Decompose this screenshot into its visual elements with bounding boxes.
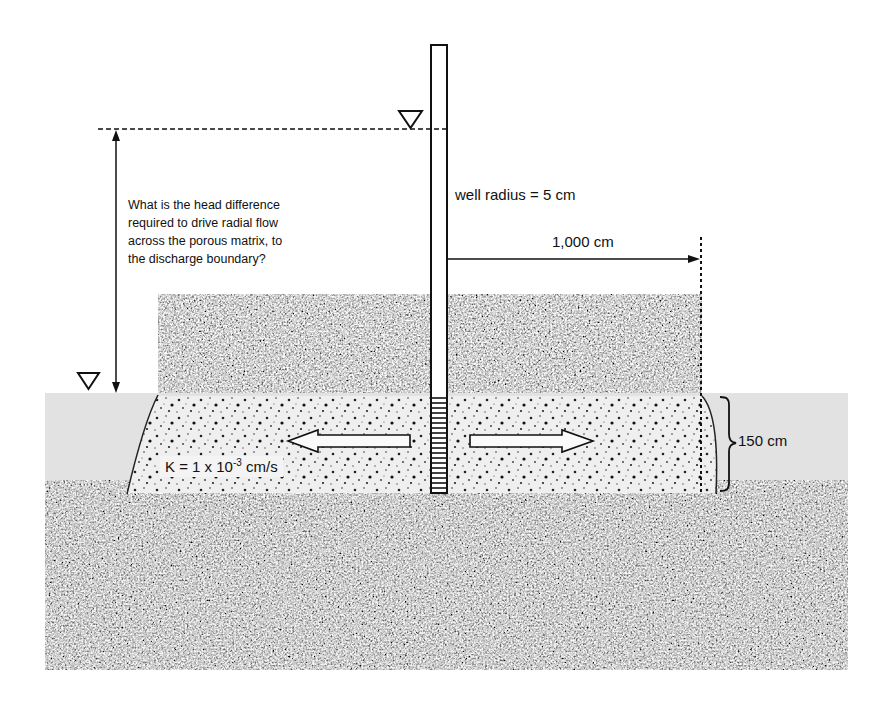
aquifer-thickness-label: 150 cm	[738, 432, 787, 449]
radial-flow-diagram: What is the head difference required to …	[0, 0, 892, 706]
k-prefix: K = 1 x 10	[165, 458, 233, 475]
k-exponent: -3	[233, 457, 242, 468]
question-line: the discharge boundary?	[128, 250, 358, 268]
well-radius-label: well radius = 5 cm	[455, 186, 575, 203]
water-table-triangle-upper-icon	[399, 111, 422, 128]
bedrock-granite	[45, 480, 848, 670]
question-line: required to drive radial flow	[128, 214, 358, 232]
k-suffix: cm/s	[242, 458, 278, 475]
head-difference-arrow	[112, 130, 120, 393]
well-pipe	[431, 45, 447, 493]
porous-aquifer	[127, 396, 717, 493]
radial-distance-arrow	[447, 255, 700, 263]
question-text: What is the head difference required to …	[128, 196, 358, 268]
water-table-triangle-lower-icon	[78, 373, 99, 389]
radial-distance-label: 1,000 cm	[552, 233, 614, 250]
question-line: What is the head difference	[128, 196, 358, 214]
hydraulic-conductivity-label: K = 1 x 10-3 cm/s	[160, 456, 283, 477]
question-line: across the porous matrix, to	[128, 232, 358, 250]
